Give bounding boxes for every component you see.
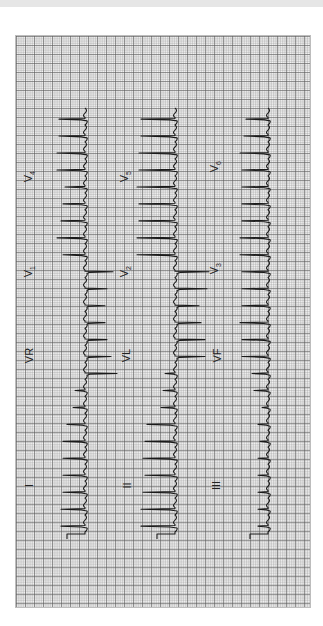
lead-label-v5: V5 [119,171,132,182]
lead-label-avr: VR [24,348,35,363]
lead-label-avl: VL [121,349,132,362]
lead-label-i: I [24,484,35,487]
ecg-trace-3 [240,108,270,539]
ecg-trace-2 [137,108,209,539]
lead-label-avf: VF [212,348,223,362]
ecg-trace-1 [57,108,117,539]
lead-label-v4: V4 [23,171,36,182]
ecg-traces [0,0,323,626]
lead-label-v3: V3 [209,263,222,274]
lead-label-v1: V1 [23,266,36,277]
lead-label-iii: III [211,481,222,490]
lead-label-v6: V6 [209,161,222,172]
lead-label-v2: V2 [119,266,132,277]
lead-label-ii: II [122,482,133,488]
